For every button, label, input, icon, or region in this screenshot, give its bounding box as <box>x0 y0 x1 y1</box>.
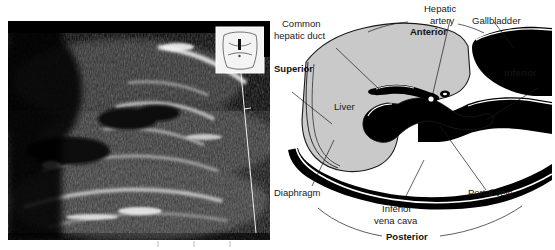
structure-hepatic-artery <box>425 93 437 105</box>
liver-anatomy-diagram: Common hepatic duct Hepatic artery Gallb… <box>272 0 555 250</box>
torso-body-marker <box>216 27 264 73</box>
orientation-superior: Superior <box>274 63 313 74</box>
label-liver: Liver <box>334 101 355 112</box>
label-common-hepatic-duct-line1: Common <box>282 18 321 29</box>
label-portal-vein: Portal vein <box>468 187 513 198</box>
label-common-hepatic-duct-line2: hepatic duct <box>274 30 326 41</box>
ultrasound-image <box>8 21 270 240</box>
figure-container: Common hepatic duct Hepatic artery Gallb… <box>0 0 555 250</box>
orientation-inferior: Inferior <box>504 67 537 78</box>
structure-small-vessels <box>440 91 450 98</box>
liver-sagittal-ultrasound <box>8 21 270 240</box>
label-hepatic-artery-line2: artery <box>430 15 455 26</box>
label-hepatic-artery-line1: Hepatic <box>424 3 456 14</box>
probe-position-bar <box>238 39 241 50</box>
orientation-anterior: Anterior <box>410 26 447 37</box>
label-inferior-vena-cava-line1: Inferior <box>382 203 412 214</box>
orientation-posterior: Posterior <box>386 231 428 242</box>
label-inferior-vena-cava-line2: vena cava <box>374 215 418 226</box>
anatomy-schematic: Common hepatic duct Hepatic artery Gallb… <box>272 0 555 250</box>
label-gallbladder: Gallbladder <box>472 15 521 26</box>
label-diaphragm: Diaphragm <box>274 187 321 198</box>
depth-scale-ticks <box>8 240 270 249</box>
